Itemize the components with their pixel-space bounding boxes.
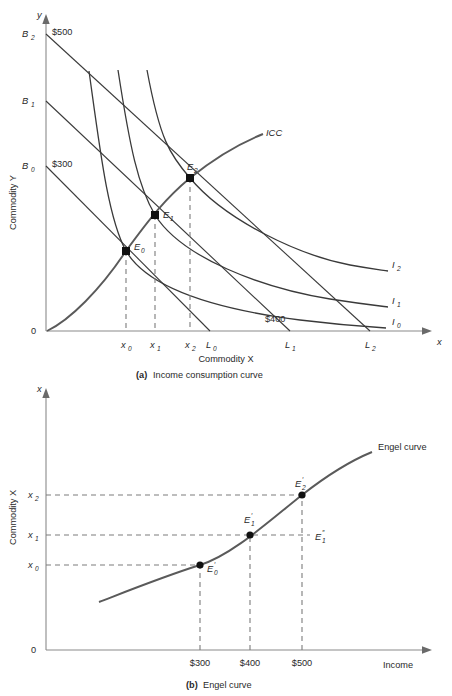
e1p-prime: ′ xyxy=(251,512,253,519)
equilibrium-dot-e1 xyxy=(151,211,159,219)
e1p-base: E xyxy=(244,514,251,525)
x1-sub: 1 xyxy=(157,345,161,352)
b2-base: B xyxy=(22,28,28,39)
panel-a-x-axis xyxy=(46,327,432,334)
b0-sub: 0 xyxy=(31,166,35,173)
e1-base: E xyxy=(163,209,170,220)
by-x2-base: x xyxy=(27,489,33,500)
panel-b-y-tick-x2: x 2 xyxy=(27,489,39,502)
engel-curve xyxy=(99,452,372,602)
panel-b-y-tick-x0: x 0 xyxy=(27,559,39,572)
panel-a-x-axis-title: Commodity X xyxy=(198,354,253,364)
x-tick-label-x0: x 0 xyxy=(120,339,132,352)
budget-line-b2-l2 xyxy=(46,34,370,331)
budget-money-300: $300 xyxy=(52,159,72,169)
panel-b-y-tick-x1: x 1 xyxy=(27,529,39,542)
e1pp-base: E xyxy=(315,531,322,542)
by-x1-sub: 1 xyxy=(35,535,39,542)
x2-base: x xyxy=(184,339,190,350)
e1p-sub: 1 xyxy=(251,520,255,527)
panel-a-y-axis xyxy=(42,14,49,331)
panel-b-y-axis-title: Commodity X xyxy=(8,490,18,545)
equilibrium-dot-e2 xyxy=(186,174,194,182)
x-tick-label-x1: x 1 xyxy=(149,339,161,352)
panel-a-origin-label: 0 xyxy=(31,326,36,336)
equilibrium-label-e1: E 1 xyxy=(163,209,174,222)
engel-point-label-e1-double-prime: E 1 ″ xyxy=(315,529,326,544)
x2-sub: 2 xyxy=(191,345,196,352)
i2-base: I xyxy=(392,259,395,270)
income-tick-300: $300 xyxy=(190,658,210,668)
x-intercept-label-l2: L 2 xyxy=(365,339,376,352)
engel-point-label-e0-prime: E 0 ′ xyxy=(207,561,218,576)
x0-base: x xyxy=(120,339,126,350)
e2-sub: 2 xyxy=(193,167,198,174)
budget-money-500: $500 xyxy=(52,27,72,37)
x-intercept-label-l0: L 0 xyxy=(206,339,217,352)
icc-curve xyxy=(47,134,263,331)
e2p-prime: ′ xyxy=(302,476,304,483)
panel-b-y-axis-symbol: x xyxy=(36,383,42,394)
l0-base: L xyxy=(206,339,211,350)
i0-base: I xyxy=(392,316,395,327)
e1-sub: 1 xyxy=(170,215,174,222)
e1pp-sub: 1 xyxy=(322,537,326,544)
engel-dot-e0-prime xyxy=(196,561,203,568)
income-tick-400: $400 xyxy=(240,658,260,668)
panel-b: x 0 Commodity X x 0 x 1 x 2 $300 xyxy=(8,383,432,690)
x0-sub: 0 xyxy=(128,345,132,352)
x-tick-label-x2: x 2 xyxy=(184,339,196,352)
x-intercept-label-l1: L 1 xyxy=(285,339,296,352)
e2-base: E xyxy=(187,161,194,172)
i2-sub: 2 xyxy=(396,265,401,272)
equilibrium-dot-e0 xyxy=(122,247,130,255)
panel-b-y-axis xyxy=(42,388,49,650)
l1-sub: 1 xyxy=(292,345,296,352)
e2p-sub: 2 xyxy=(301,484,306,491)
b1-base: B xyxy=(22,95,28,106)
economics-figure-svg: y x 0 Commodity Y B 2 $500 B 1 xyxy=(0,0,452,696)
equilibrium-label-e0: E 0 xyxy=(134,241,145,254)
budget-intercept-label-b0: B 0 xyxy=(22,160,35,173)
i1-sub: 1 xyxy=(397,301,401,308)
panel-b-x-axis-title: Income xyxy=(383,660,413,670)
l2-base: L xyxy=(365,339,370,350)
i1-base: I xyxy=(392,295,395,306)
figure-container: y x 0 Commodity Y B 2 $500 B 1 xyxy=(0,0,452,696)
e0p-sub: 0 xyxy=(214,569,218,576)
equilibrium-label-e2: E 2 xyxy=(187,161,198,174)
engel-dot-e2-prime xyxy=(298,491,305,498)
engel-point-label-e2-prime: E 2 ′ xyxy=(295,476,306,491)
by-x1-base: x xyxy=(27,529,33,540)
x1-base: x xyxy=(149,339,155,350)
income-tick-500: $500 xyxy=(292,658,312,668)
by-x2-sub: 2 xyxy=(34,495,39,502)
budget-intercept-label-b1: B 1 xyxy=(22,95,35,108)
by-x0-sub: 0 xyxy=(35,565,39,572)
b0-base: B xyxy=(22,160,28,171)
e0-base: E xyxy=(134,241,141,252)
engel-dot-e1-prime xyxy=(246,531,253,538)
panel-a: y x 0 Commodity Y B 2 $500 B 1 xyxy=(8,9,442,380)
panel-b-caption-label: (b) xyxy=(186,680,198,690)
panel-a-y-axis-title: Commodity Y xyxy=(8,175,18,230)
e0p-base: E xyxy=(207,563,214,574)
panel-a-y-axis-symbol: y xyxy=(36,9,43,20)
engel-curve-label: Engel curve xyxy=(378,442,427,452)
indifference-label-i2: I 2 xyxy=(392,259,401,272)
panel-a-caption-text: Income consumption curve xyxy=(153,370,263,380)
i0-sub: 0 xyxy=(397,322,401,329)
l1-base: L xyxy=(285,339,290,350)
e0p-prime: ′ xyxy=(214,561,216,568)
by-x0-base: x xyxy=(27,559,33,570)
panel-b-x-axis xyxy=(46,646,432,653)
panel-b-caption-text: Engel curve xyxy=(203,680,252,690)
panel-a-caption: (a) Income consumption curve xyxy=(136,370,263,380)
indifference-curve-i1 xyxy=(118,70,388,307)
panel-b-caption: (b) Engel curve xyxy=(186,680,252,690)
l2-sub: 2 xyxy=(371,345,376,352)
panel-a-caption-label: (a) xyxy=(136,370,147,380)
budget-intercept-label-b2: B 2 xyxy=(22,28,35,41)
indifference-label-i1: I 1 xyxy=(392,295,401,308)
icc-label: ICC xyxy=(266,127,282,138)
